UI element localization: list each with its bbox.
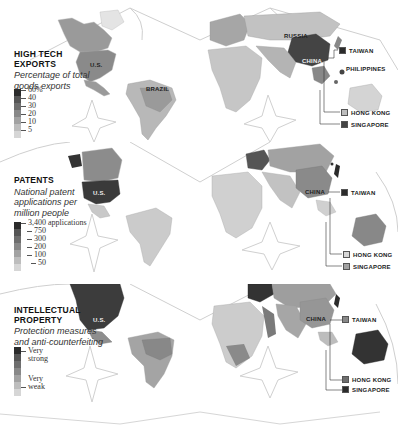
panel-title: PROPERTY (14, 316, 103, 326)
panel-intellectual-property: INTELLECTUAL PROPERTY Protection measure… (0, 284, 398, 426)
callout-singapore: SINGAPORE (341, 121, 389, 128)
map-label-philippines: PHILIPPINES (346, 66, 386, 72)
panel-patents: PATENTS National patent applications per… (0, 142, 398, 284)
legend-tick: 3,400 applications (21, 219, 87, 227)
swatch-icon (342, 386, 349, 393)
legend-tick: 50 (31, 259, 46, 267)
swatch-icon (342, 316, 349, 323)
callout-singapore: SINGAPORE (342, 386, 390, 393)
panel-subtitle: Protection measures (14, 326, 103, 337)
swatch-icon (343, 251, 350, 258)
map-label-china: CHINA (302, 58, 322, 64)
high-tech-title-block: HIGH TECH EXPORTS Percentage of total go… (14, 50, 90, 91)
legend-tick: 5 (21, 126, 32, 134)
legend-tick-very-strong: strong (28, 355, 48, 363)
map-label-brazil: BRAZIL (146, 86, 169, 92)
map-label-us: U.S. (93, 190, 105, 196)
swatch-icon (343, 263, 350, 270)
map-label-china: CHINA (306, 316, 326, 322)
legend-tick-very-weak: weak (21, 383, 45, 391)
legend-color-ramp (14, 89, 21, 138)
legend-color-ramp (14, 347, 21, 396)
map-label-russia: RUSSIA (284, 33, 308, 39)
star-gap (242, 222, 300, 270)
star-gap (244, 95, 296, 142)
map-label-us: U.S. (90, 62, 102, 68)
callout-taiwan: TAIWAN (341, 189, 375, 196)
callout-taiwan: TAIWAN (342, 316, 376, 323)
map-label-china: CHINA (305, 189, 325, 195)
swatch-icon (341, 121, 348, 128)
callout-hong-kong: HONG KONG (342, 376, 391, 383)
swatch-icon (342, 376, 349, 383)
patents-title-block: PATENTS National patent applications per… (14, 176, 77, 218)
callout-hong-kong: HONG KONG (341, 109, 390, 116)
map-label-us: U.S. (93, 317, 105, 323)
swatch-icon (339, 47, 346, 54)
panel-title: EXPORTS (14, 60, 90, 70)
callout-hong-kong: HONG KONG (343, 251, 392, 258)
panel-high-tech-exports: HIGH TECH EXPORTS Percentage of total go… (0, 0, 398, 142)
panel-title: PATENTS (14, 176, 77, 186)
swatch-icon (341, 189, 348, 196)
swatch-icon (341, 109, 348, 116)
star-gap (66, 346, 118, 402)
legend-color-ramp (14, 222, 21, 271)
callout-singapore: SINGAPORE (343, 263, 391, 270)
panel-subtitle: National patent (14, 187, 77, 198)
ip-title-block: INTELLECTUAL PROPERTY Protection measure… (14, 306, 103, 347)
panel-subtitle: million people (14, 208, 77, 219)
panel-subtitle: Percentage of total (14, 70, 90, 81)
panel-subtitle: applications per (14, 197, 77, 208)
star-gap (72, 100, 116, 142)
callout-taiwan: TAIWAN (339, 47, 373, 54)
